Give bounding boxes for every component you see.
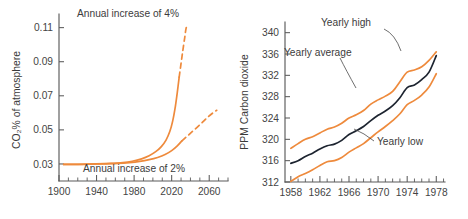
leader-line-high	[384, 29, 401, 51]
left-y-tick-label: 0.11	[34, 22, 53, 33]
left-y-tick-label: 0.07	[33, 90, 53, 101]
left-y-tick-labels: 0.030.050.070.090.11	[33, 22, 53, 169]
figure-root: 0.030.050.070.090.11 1900194019802020206…	[0, 0, 468, 219]
right-x-tick-label: 1966	[338, 187, 361, 198]
left-y-tick-label: 0.03	[33, 159, 53, 170]
series-yearly-low	[291, 74, 436, 182]
left-y-tick-label: 0.09	[33, 56, 53, 67]
right-x-tick-label: 1978	[425, 187, 448, 198]
right-y-tick-labels: 312316320324328332336340	[262, 27, 279, 187]
left-x-tick-label: 2020	[160, 186, 183, 197]
right-y-tick-label: 312	[262, 177, 279, 188]
co2-projection-svg: 0.030.050.070.090.11 1900194019802020206…	[0, 0, 234, 219]
right-x-tick-label: 1962	[309, 187, 332, 198]
left-x-tick-label: 1900	[48, 186, 71, 197]
left-y-tick-label: 0.05	[33, 124, 53, 135]
left-y-ticks	[59, 28, 64, 164]
annotation-2-percent: Annual increase of 2%	[83, 163, 185, 174]
label-yearly-average: Yearly average	[284, 47, 352, 58]
right-x-ticks	[291, 176, 444, 182]
right-x-tick-label: 1974	[396, 187, 419, 198]
right-x-tick-label: 1970	[367, 187, 390, 198]
left-x-tick-label: 1980	[123, 186, 146, 197]
keeling-curve-chart: 312316320324328332336340 195819621966197…	[234, 0, 468, 219]
right-y-axis-title: PPM Carbon dioxide	[239, 54, 250, 150]
right-y-tick-label: 328	[262, 91, 279, 102]
right-x-tick-labels: 195819621966197019741978	[279, 187, 447, 198]
right-y-tick-label: 316	[262, 155, 279, 166]
label-yearly-low: Yearly low	[377, 136, 424, 147]
keeling-curve-svg: 312316320324328332336340 195819621966197…	[234, 0, 468, 219]
left-x-tick-label: 2060	[198, 186, 221, 197]
label-yearly-high: Yearly high	[321, 17, 371, 28]
co2-projection-chart: 0.030.050.070.090.11 1900194019802020206…	[0, 0, 234, 219]
right-y-tick-label: 336	[262, 49, 279, 60]
annotation-4-percent: Annual increase of 4%	[77, 8, 179, 19]
leader-line-average	[340, 58, 356, 88]
curve-4-percent-dashed	[179, 26, 187, 77]
left-x-tick-label: 1940	[85, 186, 108, 197]
right-y-tick-label: 340	[262, 27, 279, 38]
left-x-tick-labels: 19001940198020202060	[48, 186, 221, 197]
curve-4-percent-solid	[64, 77, 179, 164]
left-x-ticks	[59, 175, 228, 181]
curve-2-percent-dashed	[182, 110, 217, 141]
right-y-tick-label: 332	[262, 70, 279, 81]
right-x-tick-label: 1958	[279, 187, 302, 198]
left-y-axis-title: CO₂% of atmosphere	[11, 51, 22, 149]
right-y-tick-label: 320	[262, 134, 279, 145]
right-y-tick-label: 324	[262, 113, 279, 124]
